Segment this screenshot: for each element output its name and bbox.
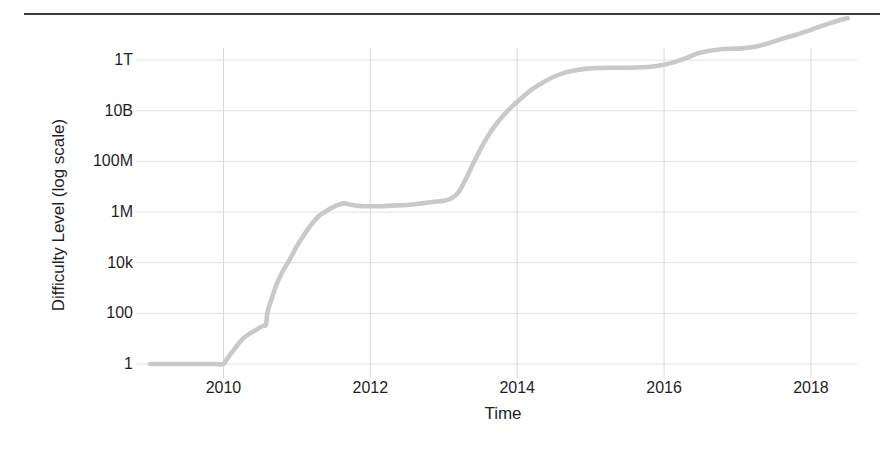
x-tick-label: 2014 (499, 379, 535, 397)
x-tick-label: 2010 (206, 379, 242, 397)
difficulty-over-time-figure: 1T10B100M1M10k1001 20102012201420162018 … (0, 0, 894, 457)
difficulty-line (150, 18, 848, 364)
y-axis-title: Difficulty Level (log scale) (46, 55, 72, 375)
x-axis-title: Time (150, 404, 856, 424)
x-tick-label: 2018 (793, 379, 829, 397)
x-tick-label: 2016 (646, 379, 682, 397)
x-tick-label: 2012 (353, 379, 389, 397)
gridlines (136, 60, 857, 364)
chart-canvas (0, 0, 894, 457)
x-tick-lines (223, 48, 811, 378)
